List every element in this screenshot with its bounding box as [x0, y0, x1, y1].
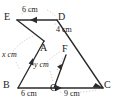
vertex-label-F: F: [62, 44, 68, 54]
measure-label-GC: 9 cm: [64, 90, 80, 98]
guide-x: [13, 36, 33, 51]
vertex-label-B: B: [3, 80, 10, 90]
segment-EA: [17, 20, 44, 41]
guide-gc2: [80, 90, 96, 92]
vertex-label-D: D: [58, 12, 65, 22]
measure-label-ED: 6 cm: [22, 6, 38, 14]
measure-label-GF: y cm: [34, 61, 49, 69]
vertex-label-G: G: [50, 83, 57, 93]
guide-x2: [16, 62, 20, 70]
vertex-label-E: E: [4, 12, 10, 22]
vertex-label-A: A: [40, 43, 47, 53]
measure-label-DA: 4 cm: [56, 26, 72, 34]
geometry-figure: E D A F B G C 6 cm 4 cm x cm y cm 6 cm 9…: [0, 0, 114, 106]
vertex-label-C: C: [104, 80, 111, 90]
arrowhead-ED: [30, 17, 37, 23]
arrowhead-BA: [29, 58, 34, 66]
measure-label-BG: 6 cm: [21, 90, 37, 98]
guide-y2: [50, 71, 53, 82]
measure-label-BA: x cm: [2, 51, 17, 59]
guide-lines: [13, 10, 96, 92]
guide-ed-right: [47, 10, 55, 16]
